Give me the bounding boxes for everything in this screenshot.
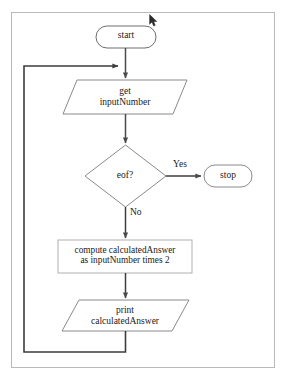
node-stop: [204, 165, 252, 187]
flowchart-canvas: start get inputNumber eof? stop compute …: [0, 0, 287, 380]
node-input: [63, 80, 187, 114]
node-start: [96, 26, 156, 48]
node-decision: [85, 145, 166, 207]
node-compute: [58, 240, 192, 273]
node-print: [62, 300, 189, 331]
flowchart-graphics: [0, 0, 287, 380]
